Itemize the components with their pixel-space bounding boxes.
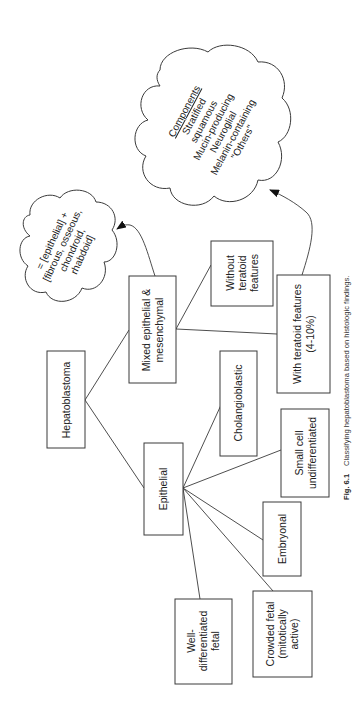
node-label: (mitotically — [276, 608, 288, 658]
node-label: mesenchymal — [153, 298, 165, 363]
edge-root-mixed — [85, 330, 129, 400]
node-mixed-epithelial-mesenchymal: Mixed epithelial & mesenchymal — [129, 276, 176, 383]
node-cholangioblastic: Cholangioblastic — [220, 351, 257, 456]
arrow-mixed-to-definition — [117, 225, 155, 276]
node-label: undifferentiated — [306, 417, 318, 489]
mixed-definition-cloud: = [epithelial] + [fibrous, osseous, chon… — [20, 190, 117, 301]
edge-root-epithelial — [85, 400, 144, 488]
node-label: Mixed epithelial & — [140, 289, 152, 371]
node-embryonal: Embryonal — [263, 502, 301, 576]
node-without-teratoid: Without teratoid features — [211, 241, 273, 306]
figure-caption: Fig. 6.1 Classifying hepatoblastoma base… — [342, 276, 351, 500]
node-label: fetal — [209, 631, 221, 651]
components-cloud: Components Stratified squamous Mucin-pro… — [135, 45, 291, 205]
edge-mixed-with — [176, 329, 277, 334]
caption-label: Fig. 6.1 — [342, 473, 351, 500]
node-label: Well- — [185, 629, 197, 653]
node-well-differentiated-fetal: Well- differentiated fetal — [175, 599, 232, 684]
node-label: Crowded fetal — [264, 602, 276, 667]
node-crowded-fetal: Crowded fetal (mitotically active) — [253, 591, 312, 677]
hepatoblastoma-classification-diagram: Components Stratified squamous Mucin-pro… — [0, 0, 363, 713]
node-label: Cholangioblastic — [232, 364, 244, 441]
caption-text: Classifying hepatoblastoma based on hist… — [342, 276, 351, 466]
node-label: Hepatoblastoma — [60, 362, 72, 439]
node-label: teratoid — [236, 255, 248, 290]
edge-epithelial-embryonal — [183, 488, 263, 540]
node-epithelial: Epithelial — [144, 443, 183, 535]
edge-mixed-without — [176, 265, 211, 329]
node-label: Small cell — [293, 431, 305, 476]
node-with-teratoid: With teratoid features (4-10%) — [277, 275, 330, 393]
node-hepatoblastoma: Hepatoblastoma — [47, 351, 85, 448]
node-label: features — [248, 254, 260, 292]
node-label: Epithelial — [157, 468, 169, 511]
node-small-cell-undifferentiated: Small cell undifferentiated — [281, 409, 329, 497]
node-label: (4-10%) — [304, 315, 316, 352]
node-label: differentiated — [197, 611, 209, 672]
node-label: active) — [288, 619, 300, 650]
node-label: Without — [224, 255, 236, 291]
node-label: With teratoid features — [291, 284, 303, 384]
arrow-with-to-components — [270, 190, 312, 275]
node-label: Embryonal — [276, 514, 288, 564]
